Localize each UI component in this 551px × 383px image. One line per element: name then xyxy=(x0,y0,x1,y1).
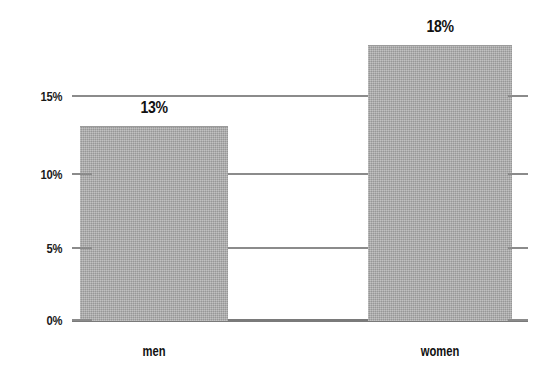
tick-right-15 xyxy=(508,95,528,97)
y-tick-label-10: 10% xyxy=(40,167,62,182)
bar-men xyxy=(80,126,228,321)
tick-left-0 xyxy=(72,319,92,321)
category-label-men: men xyxy=(95,343,213,359)
y-tick-label-0: 0% xyxy=(46,313,62,328)
bar-value-label-men: 13% xyxy=(89,99,219,117)
tick-left-5 xyxy=(72,247,92,249)
bar-value-label-women: 18% xyxy=(377,18,504,36)
y-tick-label-5: 5% xyxy=(46,241,62,256)
tick-right-0 xyxy=(508,319,528,321)
plot-area: 15% 10% 5% 0% 13% 18% men women xyxy=(0,0,551,383)
bar-chart: 15% 10% 5% 0% 13% 18% men women xyxy=(0,0,551,383)
category-label-women: women xyxy=(382,343,497,359)
tick-left-15 xyxy=(72,95,92,97)
y-tick-label-15: 15% xyxy=(40,89,62,104)
tick-left-10 xyxy=(72,173,92,175)
tick-right-10 xyxy=(508,173,528,175)
tick-right-5 xyxy=(508,247,528,249)
bar-women xyxy=(368,45,512,321)
